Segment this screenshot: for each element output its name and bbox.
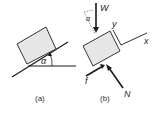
friction-arrow	[86, 66, 103, 76]
y-axis-label: y	[111, 19, 117, 29]
normal-arrow	[109, 68, 123, 88]
friction-label: f	[85, 76, 89, 86]
angle-guide-b2	[84, 10, 93, 12]
panel-b: W α y x f N (b)	[83, 3, 149, 103]
block-a	[17, 27, 56, 64]
angle-label-b: α	[86, 15, 91, 22]
caption-a: (a)	[35, 94, 45, 103]
caption-b: (b)	[100, 94, 110, 103]
angle-label-a: α	[41, 56, 47, 66]
weight-arrowhead	[93, 27, 99, 33]
block-b	[83, 31, 120, 66]
normal-label: N	[124, 89, 131, 99]
x-axis-label: x	[143, 36, 149, 46]
incline-diagram: α (a) W α y x f N (b)	[0, 0, 158, 115]
panel-a: α (a)	[12, 27, 76, 103]
weight-label: W	[100, 3, 110, 13]
